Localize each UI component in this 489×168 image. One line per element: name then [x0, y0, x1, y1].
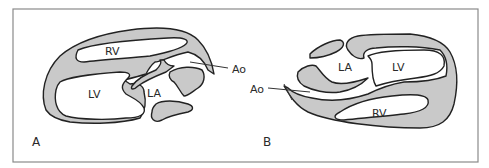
panel-b-label-lv: LV — [392, 61, 405, 74]
panel-b-la-upper-wall — [310, 40, 343, 58]
panel-a-label-rv: RV — [105, 45, 120, 58]
panel-b-letter: B — [263, 135, 271, 149]
panel-a-letter: A — [32, 135, 41, 149]
panel-b-label-la: LA — [338, 61, 352, 74]
panel-b-label-ao: Ao — [250, 83, 264, 96]
panel-a-lower-wall — [151, 101, 192, 121]
panel-a-label-la: LA — [147, 87, 161, 100]
panel-a-label-ao: Ao — [232, 63, 246, 76]
panel-b-label-rv: RV — [372, 107, 387, 120]
panel-a: RV LV LA Ao A — [32, 28, 246, 149]
panel-b-la-lower-wall — [297, 65, 368, 92]
panel-b: LA LV RV Ao B — [250, 34, 457, 149]
panel-a-label-lv: LV — [88, 88, 101, 101]
diagram-canvas: RV LV LA Ao A LA LV RV Ao B — [0, 0, 489, 168]
panel-a-la-wall — [169, 67, 204, 96]
